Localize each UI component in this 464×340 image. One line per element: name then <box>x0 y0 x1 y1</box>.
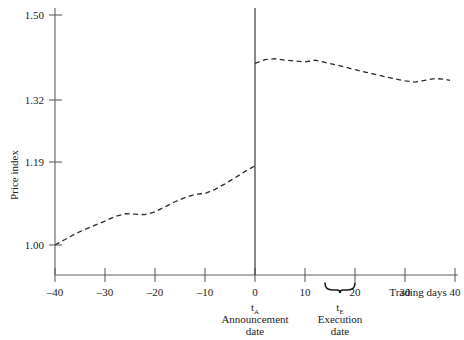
y-tick-label-100: 1.00 <box>25 239 45 251</box>
announcement-line2: date <box>246 325 264 337</box>
x-tick-label-40: 40 <box>450 286 462 298</box>
execution-line2: date <box>331 325 349 337</box>
x-tick-label--20: –20 <box>146 286 164 298</box>
execution-line1: Execution <box>318 313 363 325</box>
price-index-chart: 1.50 1.32 1.19 1.00 Price index –40 –30 … <box>0 0 464 340</box>
y-axis-title: Price index <box>8 150 20 200</box>
x-tick-label--30: –30 <box>96 286 114 298</box>
x-tick-label-0: 0 <box>252 286 258 298</box>
y-tick-label-132: 1.32 <box>25 94 44 106</box>
x-tick-label--40: –40 <box>46 286 64 298</box>
x-axis-title: Trading days <box>389 286 446 298</box>
x-tick-label-20: 20 <box>350 286 362 298</box>
x-tick-label--10: –10 <box>196 286 214 298</box>
y-tick-label-119: 1.19 <box>25 156 45 168</box>
announcement-line1: Announcement <box>221 313 288 325</box>
y-tick-label-150: 1.50 <box>25 9 45 21</box>
chart-svg: 1.50 1.32 1.19 1.00 Price index –40 –30 … <box>0 0 464 340</box>
x-tick-label-10: 10 <box>300 286 312 298</box>
